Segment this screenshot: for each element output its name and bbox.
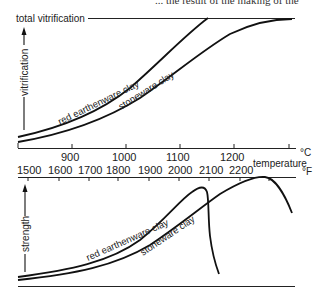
vitrification-label: vitrification: [19, 49, 30, 96]
fahrenheit-tick-1500: 1500: [17, 164, 41, 176]
fahrenheit-unit: °F: [302, 166, 312, 177]
temperature-label: temperature: [253, 158, 307, 169]
celsius-tick-1000: 1000: [112, 151, 136, 163]
vitrification-chart: total vitrification vitrification red ea…: [16, 13, 311, 169]
header-fragment: ... the result of the making of the: [155, 0, 299, 6]
red-earthenware-vitrification-curve: [18, 18, 208, 137]
celsius-unit: °C: [300, 147, 311, 158]
fahrenheit-tick-1900: 1900: [138, 164, 162, 176]
celsius-tick-1200: 1200: [220, 151, 244, 163]
strength-chart: 1500 1600 1700 1800 1900 2000 2100 2200 …: [17, 164, 312, 287]
total-vitrification-label: total vitrification: [16, 13, 85, 24]
fahrenheit-tick-1600: 1600: [48, 164, 72, 176]
ceramics-diagram: ... the result of the making of the tota…: [0, 0, 326, 293]
fahrenheit-tick-2000: 2000: [168, 164, 192, 176]
fahrenheit-tick-1700: 1700: [78, 164, 102, 176]
strength-label: strength: [20, 216, 31, 252]
celsius-tick-900: 900: [61, 151, 79, 163]
arrow-up-icon: [23, 184, 28, 192]
arrow-up-icon: [22, 27, 27, 35]
fahrenheit-tick-2100: 2100: [199, 164, 223, 176]
fahrenheit-tick-2200: 2200: [229, 164, 253, 176]
celsius-tick-1100: 1100: [166, 151, 190, 163]
red-earthenware-strength-curve: [18, 188, 219, 278]
fahrenheit-tick-1800: 1800: [106, 164, 130, 176]
